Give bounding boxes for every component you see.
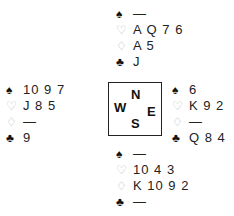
east-hearts-row: ♡K 9 2 xyxy=(172,98,226,114)
heart-icon: ♡ xyxy=(6,98,23,114)
club-icon: ♣ xyxy=(172,130,189,146)
club-icon: ♣ xyxy=(6,130,23,146)
diamond-icon: ♢ xyxy=(116,38,133,54)
south-clubs-row: ♣— xyxy=(116,194,189,210)
west-hearts: J 8 5 xyxy=(23,98,56,114)
club-icon: ♣ xyxy=(116,54,133,70)
compass-south: S xyxy=(131,116,140,131)
spade-icon: ♠ xyxy=(172,82,189,98)
north-hearts-row: ♡A Q 7 6 xyxy=(116,22,183,38)
diamond-icon: ♢ xyxy=(6,114,23,130)
heart-icon: ♡ xyxy=(172,98,189,114)
north-clubs: J xyxy=(133,54,141,70)
spade-icon: ♠ xyxy=(6,82,23,98)
west-clubs-row: ♣9 xyxy=(6,130,65,146)
compass-box: N W E S xyxy=(108,82,162,136)
south-hearts-row: ♡10 4 3 xyxy=(116,162,189,178)
west-spades-row: ♠10 9 7 xyxy=(6,82,65,98)
west-hand: ♠10 9 7 ♡J 8 5 ♢— ♣9 xyxy=(6,82,65,146)
north-hand: ♠— ♡A Q 7 6 ♢A 5 ♣J xyxy=(116,6,183,70)
east-spades-row: ♠6 xyxy=(172,82,226,98)
north-spades: — xyxy=(133,6,147,22)
west-spades: 10 9 7 xyxy=(23,82,65,98)
east-hand: ♠6 ♡K 9 2 ♢— ♣Q 8 4 xyxy=(172,82,226,146)
north-diamonds: A 5 xyxy=(133,38,155,54)
south-diamonds-row: ♢K 10 9 2 xyxy=(116,178,189,194)
west-clubs: 9 xyxy=(23,130,31,146)
south-diamonds: K 10 9 2 xyxy=(133,178,189,194)
heart-icon: ♡ xyxy=(116,162,133,178)
south-spades: — xyxy=(133,146,147,162)
east-clubs: Q 8 4 xyxy=(189,130,226,146)
heart-icon: ♡ xyxy=(116,22,133,38)
south-spades-row: ♠— xyxy=(116,146,189,162)
east-clubs-row: ♣Q 8 4 xyxy=(172,130,226,146)
spade-icon: ♠ xyxy=(116,146,133,162)
south-clubs: — xyxy=(133,194,147,210)
south-hearts: 10 4 3 xyxy=(133,162,175,178)
east-diamonds-row: ♢— xyxy=(172,114,226,130)
north-hearts: A Q 7 6 xyxy=(133,22,183,38)
compass-north: N xyxy=(131,87,140,102)
north-clubs-row: ♣J xyxy=(116,54,183,70)
diamond-icon: ♢ xyxy=(172,114,189,130)
north-diamonds-row: ♢A 5 xyxy=(116,38,183,54)
east-hearts: K 9 2 xyxy=(189,98,224,114)
south-hand: ♠— ♡10 4 3 ♢K 10 9 2 ♣— xyxy=(116,146,189,210)
east-spades: 6 xyxy=(189,82,197,98)
west-hearts-row: ♡J 8 5 xyxy=(6,98,65,114)
diamond-icon: ♢ xyxy=(116,178,133,194)
spade-icon: ♠ xyxy=(116,6,133,22)
compass-west: W xyxy=(114,100,126,115)
compass-east: E xyxy=(147,104,156,119)
west-diamonds-row: ♢— xyxy=(6,114,65,130)
club-icon: ♣ xyxy=(116,194,133,210)
west-diamonds: — xyxy=(23,114,37,130)
north-spades-row: ♠— xyxy=(116,6,183,22)
east-diamonds: — xyxy=(189,114,203,130)
